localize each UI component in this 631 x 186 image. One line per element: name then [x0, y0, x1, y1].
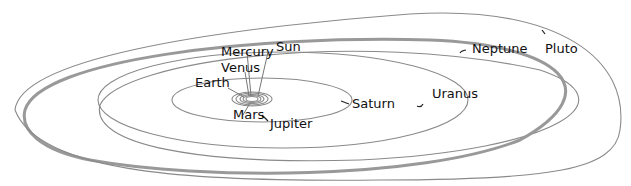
label-venus: Venus	[221, 60, 260, 75]
label-mars: Mars	[233, 107, 265, 122]
arrow-saturn	[341, 101, 349, 104]
orbit-neptune	[24, 39, 565, 173]
label-mercury: Mercury	[221, 44, 274, 59]
arrow-uranus	[417, 104, 423, 107]
arrow-pluto	[542, 30, 545, 34]
label-sun: Sun	[276, 39, 301, 54]
label-earth: Earth	[195, 75, 230, 90]
label-uranus: Uranus	[432, 86, 478, 101]
solar-system-diagram: Sun Mercury Venus Earth Mars Jupiter Sat…	[0, 0, 631, 186]
label-pluto: Pluto	[545, 41, 578, 56]
arrow-neptune	[460, 50, 466, 53]
label-neptune: Neptune	[472, 41, 528, 56]
label-jupiter: Jupiter	[269, 116, 313, 131]
label-saturn: Saturn	[352, 96, 395, 111]
orbit-saturn	[98, 52, 468, 148]
